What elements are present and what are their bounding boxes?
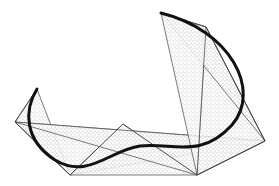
spline-convex-hull-diagram: [0, 0, 279, 186]
stippled-convex-hull: [15, 13, 265, 175]
